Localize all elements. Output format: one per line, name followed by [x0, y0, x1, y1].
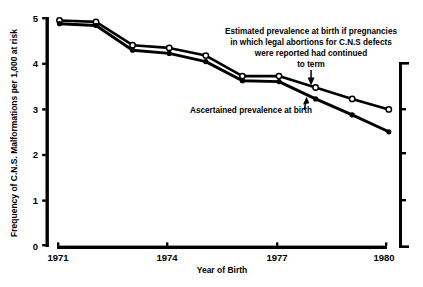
annotation-estimated-line-4: to term [297, 60, 325, 69]
data-point [240, 78, 245, 83]
y-tick-5 [42, 17, 46, 19]
chart-svg: 5 4 3 2 1 0 Frequency of C.N.S. Malforma… [0, 0, 423, 287]
data-point [276, 73, 281, 78]
annotation-ascertained-label: Ascertained prevalence at birth [190, 106, 312, 115]
y-tick-2 [42, 154, 46, 156]
y-tick-label-5: 5 [33, 13, 39, 24]
x-tick-1977 [276, 242, 278, 245]
right-bracket [399, 62, 409, 248]
y-tick-label-1: 1 [33, 195, 39, 206]
y-tick-3 [42, 108, 46, 110]
x-tick-label-1974: 1974 [156, 252, 178, 263]
x-tick-label-1971: 1971 [47, 252, 69, 263]
annotation-ascertained: Ascertained prevalence at birth [190, 97, 312, 115]
data-point [276, 79, 281, 84]
x-tick-1974 [166, 242, 168, 245]
data-point [167, 45, 172, 50]
y-tick-0 [42, 244, 46, 246]
chart-figure: 5 4 3 2 1 0 Frequency of C.N.S. Malforma… [0, 0, 423, 287]
data-point [386, 107, 391, 112]
annotation-estimated-line-3: were reported had continued [254, 49, 367, 58]
y-tick-label-3: 3 [33, 104, 38, 115]
data-point [203, 53, 208, 58]
data-point [203, 59, 208, 64]
data-point [386, 129, 391, 134]
x-tick-1971 [57, 242, 59, 245]
y-tick-label-0: 0 [33, 241, 38, 252]
y-tick-1 [42, 199, 46, 201]
annotation-estimated-line-1: Estimated prevalence at birth if pregnan… [225, 27, 397, 36]
data-point [313, 96, 318, 101]
annotation-estimated-arrow-icon [308, 70, 315, 86]
data-point [57, 21, 62, 26]
x-axis [57, 242, 387, 249]
annotation-estimated-line-2: in which legal abortions for C.N.S defec… [230, 38, 392, 47]
data-point [313, 85, 318, 90]
y-axis [42, 17, 49, 247]
y-axis-title: Frequency of C.N.S. Malformations per 1,… [9, 29, 19, 237]
x-tick-label-1980: 1980 [373, 252, 394, 263]
x-tick-label-1977: 1977 [266, 252, 287, 263]
y-tick-label-2: 2 [33, 149, 38, 160]
data-point [130, 43, 135, 48]
y-tick-4 [42, 63, 46, 65]
x-axis-title: Year of Birth [197, 265, 248, 275]
x-tick-1980 [385, 242, 387, 245]
data-point [93, 23, 98, 28]
y-tick-label-4: 4 [33, 58, 39, 69]
data-point [130, 48, 135, 53]
data-point [350, 96, 355, 101]
data-point [350, 112, 355, 117]
data-point [240, 73, 245, 78]
data-point [167, 51, 172, 56]
